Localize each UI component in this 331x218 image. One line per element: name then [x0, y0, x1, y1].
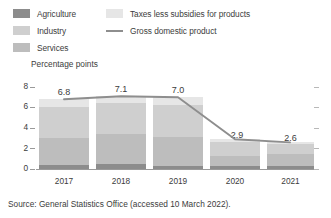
y-tick-label-8: 8 — [14, 81, 28, 91]
y-tick-mark-right-2 — [314, 148, 319, 149]
bar-2021 — [267, 142, 314, 169]
y-tick-mark-2 — [30, 148, 35, 149]
x-tick-label-2021: 2021 — [267, 176, 314, 186]
y-tick-mark-right-6 — [314, 107, 319, 108]
y-tick-mark-right-0 — [314, 169, 319, 170]
x-tick-label-2019: 2019 — [153, 176, 203, 186]
bar-2018-value-label: 7.1 — [96, 84, 146, 94]
source-note: Source: General Statistics Office (acces… — [8, 199, 231, 209]
y-tick-mark-0 — [30, 169, 35, 170]
y-tick-mark-right-8 — [314, 87, 319, 88]
x-tick-label-2020: 2020 — [210, 176, 260, 186]
bar-2019 — [153, 97, 203, 169]
gdp-growth-contributions-figure: Agriculture Industry Services Taxes less… — [0, 0, 331, 218]
bar-2020-value-label: 2.9 — [212, 130, 262, 140]
y-tick-label-6: 6 — [14, 101, 28, 111]
y-tick-mark-6 — [30, 107, 35, 108]
bar-2019-segment-industry — [153, 105, 203, 137]
bar-2019-value-label: 7.0 — [153, 85, 203, 95]
y-tick-label-0: 0 — [14, 163, 28, 173]
bar-2019-segment-taxes — [153, 97, 203, 105]
x-axis-baseline — [36, 169, 314, 170]
bar-2020 — [210, 139, 260, 169]
bar-2020-segment-services — [210, 156, 260, 166]
y-tick-mark-right-4 — [314, 128, 319, 129]
bar-2018-segment-services — [96, 134, 146, 164]
bar-2017-segment-agriculture — [39, 165, 89, 169]
bar-2018-segment-taxes — [96, 96, 146, 103]
bar-2021-value-label: 2.6 — [267, 133, 314, 143]
y-tick-mark-8 — [30, 87, 35, 88]
bar-2019-segment-agriculture — [153, 166, 203, 169]
bar-2017-segment-taxes — [39, 99, 89, 107]
bar-2020-segment-industry — [210, 142, 260, 155]
bar-2017 — [39, 99, 89, 169]
bar-2018-segment-industry — [96, 103, 146, 134]
bar-2019-segment-services — [153, 137, 203, 166]
y-tick-mark-4 — [30, 128, 35, 129]
plot-area: 8 6 4 2 0 6.8 2017 — [0, 0, 331, 218]
bar-2017-value-label: 6.8 — [39, 87, 89, 97]
y-tick-label-2: 2 — [14, 143, 28, 153]
bar-2021-segment-agriculture — [267, 166, 314, 169]
bar-2021-segment-industry — [267, 144, 314, 153]
bar-2017-segment-industry — [39, 107, 89, 138]
y-tick-label-4: 4 — [14, 122, 28, 132]
x-tick-label-2017: 2017 — [39, 176, 89, 186]
x-tick-label-2018: 2018 — [96, 176, 146, 186]
bar-2021-segment-services — [267, 154, 314, 166]
bar-2020-segment-agriculture — [210, 166, 260, 169]
bar-2018 — [96, 96, 146, 169]
bar-2017-segment-services — [39, 138, 89, 165]
bar-2018-segment-agriculture — [96, 164, 146, 169]
